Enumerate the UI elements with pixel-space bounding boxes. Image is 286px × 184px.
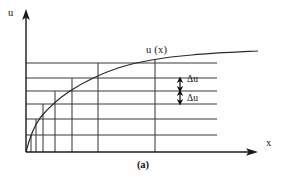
figure-caption: (a) bbox=[0, 160, 286, 171]
delta-u-label: Δu bbox=[187, 75, 198, 85]
axes bbox=[22, 9, 258, 156]
vertical-gridlines bbox=[31, 59, 155, 152]
curve-label: u (x) bbox=[146, 45, 167, 56]
figure-container: u x u (x) Δu Δu (a) bbox=[0, 0, 286, 184]
figure-canvas bbox=[0, 0, 286, 184]
curve-u-of-x bbox=[26, 51, 258, 152]
x-axis-label: x bbox=[266, 138, 271, 149]
y-axis-label: u bbox=[8, 8, 13, 19]
delta-u-label: Δu bbox=[187, 94, 198, 104]
